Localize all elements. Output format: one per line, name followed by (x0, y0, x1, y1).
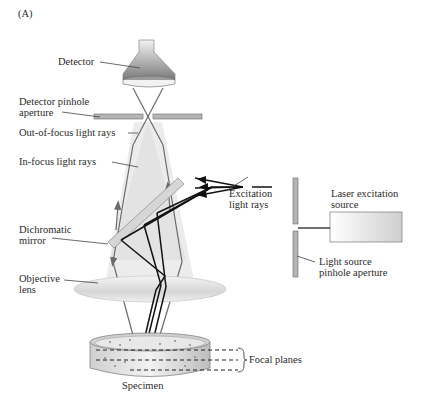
label-focal-planes: Focal planes (249, 354, 302, 366)
objective-lens (74, 276, 226, 302)
light-source-pinhole-aperture (293, 178, 298, 277)
label-objective-2: lens (19, 284, 36, 296)
label-excitation-2: light rays (229, 199, 268, 211)
label-in-focus: In-focus light rays (19, 156, 96, 168)
specimen-dish (90, 333, 210, 377)
laser-excitation-source (330, 212, 402, 242)
label-detector-pinhole-2: aperture (19, 107, 53, 119)
label-dichromatic-2: mirror (19, 235, 46, 247)
focal-planes-brace (238, 348, 247, 372)
label-detector: Detector (58, 56, 94, 68)
label-out-of-focus: Out-of-focus light rays (19, 127, 115, 139)
panel-label: (A) (18, 8, 33, 20)
label-laser-2: source (331, 199, 358, 211)
label-specimen: Specimen (122, 380, 163, 392)
detector (123, 40, 175, 87)
label-light-pinhole-2: pinhole aperture (319, 267, 388, 279)
